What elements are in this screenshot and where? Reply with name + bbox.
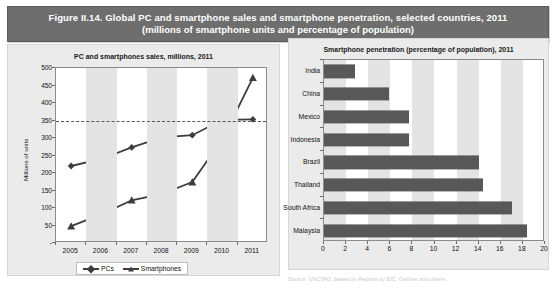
right-chart-x-tick bbox=[411, 241, 412, 244]
left-chart-y-tick-label: 350 bbox=[28, 116, 52, 123]
left-chart-y-tick-label: 300 bbox=[28, 134, 52, 141]
right-chart-x-tick bbox=[434, 241, 435, 244]
figure-header: Figure II.14. Global PC and smartphone s… bbox=[7, 6, 549, 42]
left-chart-y-tick-label: 100 bbox=[28, 204, 52, 211]
bar-mexico bbox=[324, 110, 409, 123]
right-chart-y-tick bbox=[320, 196, 323, 197]
right-chart-category-label: Malaysia bbox=[262, 226, 320, 233]
left-chart-y-tick-label: 400 bbox=[28, 99, 52, 106]
right-chart-category-label: Thailand bbox=[262, 181, 320, 188]
right-chart-x-tick bbox=[456, 241, 457, 244]
left-chart-x-tick bbox=[55, 242, 56, 245]
right-chart-x-tick-label: 18 bbox=[512, 245, 532, 252]
right-chart-title: Smartphone penetration (percentage of po… bbox=[289, 46, 548, 53]
plot-band bbox=[207, 68, 237, 241]
left-chart-y-tick bbox=[52, 190, 55, 191]
data-point-marker bbox=[128, 144, 135, 151]
left-chart-y-tick bbox=[52, 102, 55, 103]
bar-malaysia bbox=[324, 224, 527, 237]
left-chart-x-tick bbox=[176, 242, 177, 245]
right-chart-x-tick-label: 0 bbox=[313, 245, 333, 252]
right-chart-x-tick-label: 14 bbox=[468, 245, 488, 252]
data-point-marker bbox=[249, 116, 256, 123]
right-chart-y-tick bbox=[320, 59, 323, 60]
right-chart-x-tick-label: 16 bbox=[490, 245, 510, 252]
legend-label: PCs bbox=[101, 265, 114, 272]
right-chart-x-tick bbox=[323, 241, 324, 244]
left-chart-y-tick-label: - bbox=[28, 239, 52, 246]
left-chart-y-tick-label: 450 bbox=[28, 81, 52, 88]
right-chart-x-tick bbox=[500, 241, 501, 244]
left-chart-y-tick-label: 500 bbox=[28, 64, 52, 71]
bar-indonesia bbox=[324, 133, 409, 146]
data-point-marker bbox=[249, 74, 257, 81]
right-chart-category-label: China bbox=[262, 90, 320, 97]
right-chart-category-label: Indonesia bbox=[262, 135, 320, 142]
right-chart-category-label: India bbox=[262, 67, 320, 74]
figure-container: Figure II.14. Global PC and smartphone s… bbox=[0, 0, 556, 288]
left-chart-y-tick bbox=[52, 172, 55, 173]
right-chart-y-tick bbox=[320, 173, 323, 174]
bar-india bbox=[324, 65, 355, 78]
left-chart-panel: PC and smartphones sales, millions, 2011… bbox=[7, 44, 280, 276]
left-chart-y-tick-label: 50 bbox=[28, 221, 52, 228]
left-chart-x-tick-label: 2011 bbox=[235, 247, 269, 254]
right-chart-x-tick-label: 8 bbox=[401, 245, 421, 252]
right-chart-y-tick bbox=[320, 82, 323, 83]
right-chart-y-tick bbox=[320, 127, 323, 128]
right-chart-panel: Smartphone penetration (percentage of po… bbox=[288, 38, 549, 270]
bar-south-africa bbox=[324, 201, 512, 214]
left-chart-y-tick bbox=[52, 225, 55, 226]
left-chart-y-tick-label: 250 bbox=[28, 151, 52, 158]
right-chart-x-tick-label: 6 bbox=[379, 245, 399, 252]
left-chart-y-tick bbox=[52, 85, 55, 86]
left-chart-y-tick bbox=[52, 155, 55, 156]
left-chart-x-tick bbox=[116, 242, 117, 245]
right-chart-y-tick bbox=[320, 105, 323, 106]
right-chart-x-tick bbox=[544, 241, 545, 244]
data-point-marker bbox=[68, 163, 75, 170]
left-chart-legend: PCsSmartphones bbox=[76, 262, 188, 275]
figure-title-line1: Figure II.14. Global PC and smartphone s… bbox=[49, 12, 508, 24]
right-chart-x-tick-label: 12 bbox=[446, 245, 466, 252]
left-chart-x-tick bbox=[237, 242, 238, 245]
bar-china bbox=[324, 88, 389, 101]
right-chart-y-tick bbox=[320, 218, 323, 219]
left-chart-y-tick bbox=[52, 207, 55, 208]
right-chart-x-tick bbox=[389, 241, 390, 244]
right-chart-x-tick bbox=[522, 241, 523, 244]
bar-thailand bbox=[324, 179, 483, 192]
right-chart-x-tick bbox=[345, 241, 346, 244]
source-note: Source: UNCTAD, based on Reports by IDC,… bbox=[288, 276, 447, 282]
right-chart-x-tick-label: 20 bbox=[534, 245, 554, 252]
left-chart-y-tick bbox=[52, 67, 55, 68]
legend-item-smartphones[interactable]: Smartphones bbox=[123, 265, 181, 272]
right-chart-x-tick-label: 2 bbox=[335, 245, 355, 252]
right-chart-plot-area bbox=[323, 59, 544, 241]
left-chart-x-tick bbox=[85, 242, 86, 245]
data-point-marker bbox=[189, 132, 196, 139]
left-chart-y-tick-label: 150 bbox=[28, 186, 52, 193]
left-chart-plot-area bbox=[55, 67, 267, 242]
left-chart-x-tick bbox=[206, 242, 207, 245]
reference-line bbox=[56, 121, 266, 122]
left-chart-x-tick-label: 2007 bbox=[114, 247, 148, 254]
left-chart-x-tick-label: 2008 bbox=[144, 247, 178, 254]
triangle-marker-icon bbox=[123, 265, 139, 272]
bar-brazil bbox=[324, 156, 479, 169]
right-chart-x-tick-label: 4 bbox=[357, 245, 377, 252]
left-chart-x-tick-label: 2006 bbox=[83, 247, 117, 254]
right-chart-x-tick-label: 10 bbox=[424, 245, 444, 252]
left-chart-x-tick-label: 2005 bbox=[53, 247, 87, 254]
plot-band bbox=[147, 68, 177, 241]
right-chart-x-tick bbox=[367, 241, 368, 244]
left-chart-title: PC and smartphones sales, millions, 2011 bbox=[8, 53, 279, 60]
left-chart-x-tick bbox=[146, 242, 147, 245]
left-chart-y-tick bbox=[52, 137, 55, 138]
figure-title-line2: (millions of smartphone units and percen… bbox=[142, 24, 414, 36]
legend-item-pcs[interactable]: PCs bbox=[83, 265, 114, 272]
left-chart-x-tick-label: 2009 bbox=[174, 247, 208, 254]
left-chart-x-tick-label: 2010 bbox=[205, 247, 239, 254]
right-chart-category-label: South Africa bbox=[262, 203, 320, 210]
right-chart-x-tick bbox=[478, 241, 479, 244]
